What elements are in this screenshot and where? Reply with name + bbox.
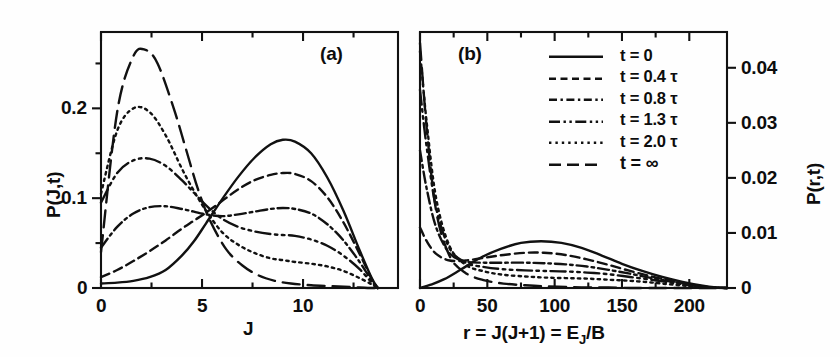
figure-canvas: (a) J P(J,t) (b) r = J(J+1) = EJ/B P(r,t… <box>0 0 840 357</box>
x-tick-label: 10 <box>293 295 314 317</box>
curve-a-2 <box>101 206 378 288</box>
legend-label: t = 0 <box>620 46 652 65</box>
y-tick-label: 0.02 <box>741 167 777 189</box>
x-axis-title-subscript: J <box>579 332 586 347</box>
legend-line-dashdotdot-icon <box>548 111 606 133</box>
x-tick-label: 100 <box>539 295 570 317</box>
curve-a-3 <box>101 158 378 288</box>
x-tick-label: 200 <box>674 295 705 317</box>
y-tick-label: 0.04 <box>741 57 777 79</box>
legend-line-dotted-icon <box>548 132 606 154</box>
legend-label: t = 2.0 τ <box>620 132 677 151</box>
legend-line-longdash-icon <box>548 154 606 176</box>
y-tick-label: 0.2 <box>61 97 87 119</box>
x-tick-label: 0 <box>96 295 106 317</box>
panel-b-x-axis-title: r = J(J+1) = EJ/B <box>463 322 605 347</box>
y-tick-label: 0.1 <box>61 187 87 209</box>
panel-a-x-axis-title: J <box>243 318 253 340</box>
legend-label: t = ∞ <box>620 153 658 174</box>
legend-label: t = 0.4 τ <box>620 67 677 86</box>
legend-line-solid-icon <box>548 46 606 68</box>
legend-label: t = 0.8 τ <box>620 89 677 108</box>
panel-b-y-axis-title: P(r,t) <box>803 163 825 205</box>
curve-a-1 <box>101 173 378 288</box>
y-tick-label: 0.01 <box>741 222 777 244</box>
x-tick-label: 5 <box>197 295 207 317</box>
x-tick-label: 0 <box>415 295 425 317</box>
x-tick-label: 150 <box>606 295 637 317</box>
curve-a-5 <box>101 49 378 288</box>
panel-b-label: (b) <box>458 43 482 65</box>
y-tick-label: 0 <box>741 277 751 299</box>
legend-line-dashed-icon <box>548 68 606 90</box>
legend-label: t = 1.3 τ <box>620 110 677 129</box>
x-tick-label: 50 <box>477 295 498 317</box>
panel-a-label: (a) <box>320 43 343 65</box>
y-tick-label: 0 <box>77 277 87 299</box>
legend-line-dashdot-icon <box>548 89 606 111</box>
y-tick-label: 0.03 <box>741 112 777 134</box>
panel-a-axes <box>92 32 398 288</box>
